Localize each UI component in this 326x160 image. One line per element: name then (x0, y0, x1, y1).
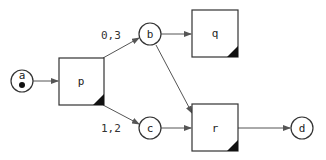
transition-q[interactable]: q (192, 10, 238, 57)
place-b[interactable]: b (139, 23, 161, 45)
transition-p[interactable]: p (59, 58, 104, 105)
transition-r-label: r (212, 122, 219, 135)
diagram-canvas: 0,3 1,2 a p b c q r d (0, 0, 326, 160)
arc-b-r (156, 45, 192, 113)
transition-r[interactable]: r (192, 104, 238, 151)
arc-label-p-b: 0,3 (101, 29, 121, 42)
place-a[interactable]: a (11, 69, 33, 92)
place-d-label: d (299, 122, 306, 135)
transition-p-label: p (78, 75, 85, 88)
place-b-label: b (147, 28, 154, 41)
place-a-label: a (19, 69, 26, 82)
token-icon (19, 82, 25, 88)
place-d[interactable]: d (291, 117, 313, 139)
place-c-label: c (147, 122, 154, 135)
arc-label-p-c: 1,2 (101, 122, 121, 135)
place-c[interactable]: c (139, 117, 161, 139)
transition-q-label: q (212, 27, 219, 40)
